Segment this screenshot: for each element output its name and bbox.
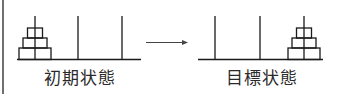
initial-state-label: 初期状態 (44, 70, 116, 87)
goal-state-figure (198, 16, 323, 60)
arrow-head-icon (182, 40, 188, 45)
initial-state-figure (17, 16, 141, 60)
transition-arrow (146, 40, 188, 45)
goal-state-label: 目標状態 (226, 70, 298, 87)
